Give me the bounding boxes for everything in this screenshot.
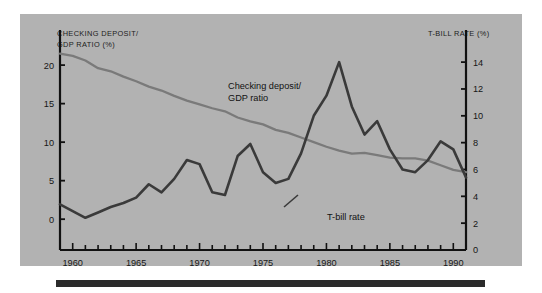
series-group	[60, 54, 466, 218]
leader-lines-group	[284, 195, 298, 207]
right-tick-label: 2	[473, 219, 478, 229]
figure-root: CHECKING DEPOSIT/ GDP RATIO (%) T-BILL R…	[0, 0, 542, 293]
series-line-checking-deposit	[60, 54, 466, 173]
right-tick-label: 8	[473, 138, 478, 148]
right-tick-label: 4	[473, 192, 478, 202]
x-tick-label: 1965	[126, 258, 146, 266]
left-tick-label: 5	[49, 176, 54, 186]
right-tick-label: 12	[473, 84, 483, 94]
right-tick-label: 0	[473, 245, 478, 255]
bottom-rule	[56, 280, 485, 287]
chart-plot: 0510152002468101214196019651970197519801…	[20, 14, 522, 266]
series-line-tbill-rate	[60, 62, 466, 218]
x-tick-label: 1980	[316, 258, 336, 266]
axes-group	[60, 30, 466, 250]
x-tick-label: 1985	[380, 258, 400, 266]
right-tick-label: 6	[473, 165, 478, 175]
left-tick-label: 0	[49, 215, 54, 225]
tick-labels-group: 0510152002468101214196019651970197519801…	[44, 58, 483, 266]
x-tick-label: 1975	[253, 258, 273, 266]
x-tick-label: 1970	[189, 258, 209, 266]
x-tick-label: 1960	[62, 258, 82, 266]
left-tick-label: 20	[44, 61, 54, 71]
left-tick-label: 10	[44, 138, 54, 148]
tbill-leader-line	[284, 195, 298, 207]
right-tick-label: 10	[473, 111, 483, 121]
tick-marks-group	[60, 62, 466, 250]
right-tick-label: 14	[473, 58, 483, 68]
x-tick-label: 1990	[443, 258, 463, 266]
left-tick-label: 15	[44, 99, 54, 109]
chart-panel: CHECKING DEPOSIT/ GDP RATIO (%) T-BILL R…	[20, 14, 522, 266]
